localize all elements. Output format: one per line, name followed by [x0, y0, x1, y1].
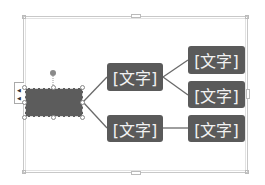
node-right-2[interactable]: [文字] — [188, 81, 245, 108]
rotate-handle[interactable] — [50, 70, 56, 76]
selection-handle[interactable] — [80, 115, 85, 120]
node-right-3[interactable]: [文字] — [188, 115, 245, 142]
selection-handle[interactable] — [51, 85, 56, 90]
node-mid-top[interactable]: [文字] — [107, 63, 163, 91]
selection-handle[interactable] — [80, 100, 85, 105]
selection-handle[interactable] — [80, 85, 85, 90]
selection-handle[interactable] — [22, 85, 27, 90]
selection-handle[interactable] — [22, 115, 27, 120]
node-mid-bottom[interactable]: [文字] — [107, 115, 163, 142]
selection-handle[interactable] — [22, 100, 27, 105]
node-right-1[interactable]: [文字] — [188, 46, 245, 74]
root-node-selected[interactable] — [25, 88, 83, 117]
selection-handle[interactable] — [51, 115, 56, 120]
